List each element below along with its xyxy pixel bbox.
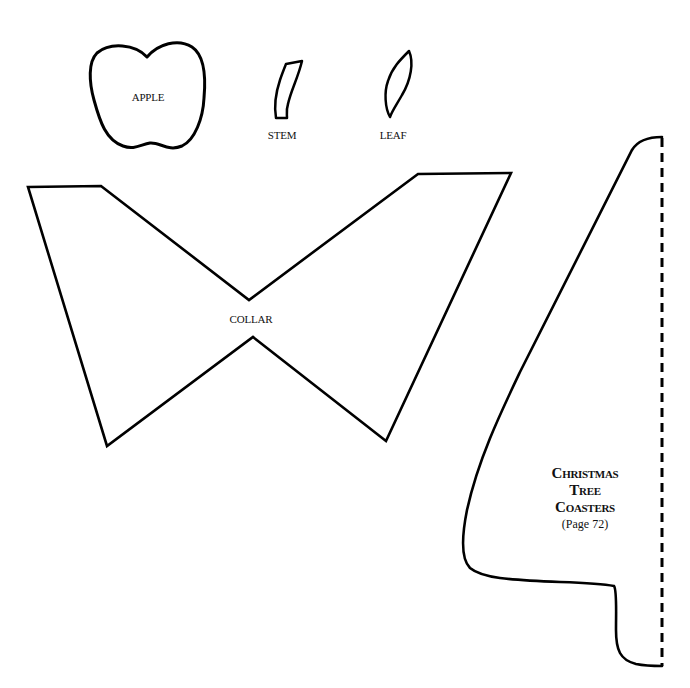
stem-label: STEM xyxy=(268,129,297,141)
tree-title-line-1: Christmas xyxy=(552,465,619,482)
leaf-label: LEAF xyxy=(380,129,407,141)
tree-page-reference: (Page 72) xyxy=(552,517,619,531)
tree-title-line-2: Tree xyxy=(552,482,619,499)
pattern-shapes xyxy=(0,0,690,688)
tree-title-line-3: Coasters xyxy=(552,499,619,516)
collar-label: COLLAR xyxy=(230,313,273,325)
tree-outline xyxy=(463,137,662,666)
pattern-sheet: APPLE STEM LEAF COLLAR Christmas Tree Co… xyxy=(0,0,690,688)
tree-title-block: Christmas Tree Coasters (Page 72) xyxy=(552,465,619,531)
stem-outline xyxy=(275,61,302,118)
leaf-outline xyxy=(386,51,412,117)
apple-label: APPLE xyxy=(132,91,165,103)
collar-outline xyxy=(28,173,511,446)
